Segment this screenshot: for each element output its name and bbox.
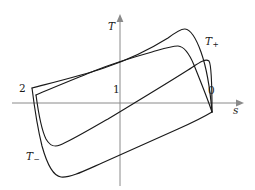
figure-root: T s 0 1 2 T+ T− <box>0 0 255 190</box>
curve-label-t-plus: T+ <box>205 36 219 49</box>
curve-label-t-plus-base: T <box>205 35 212 47</box>
s-axis-label: s <box>233 105 238 116</box>
curve-outer-upper-branch <box>32 29 212 112</box>
curve-label-t-minus-base: T <box>26 150 33 162</box>
curve-label-t-plus-subscript: + <box>212 40 219 49</box>
arrow-up-icon <box>117 14 124 22</box>
point-label-two: 2 <box>19 83 26 94</box>
curve-label-t-minus-subscript: − <box>33 155 40 164</box>
point-label-zero: 0 <box>208 85 215 96</box>
curve-label-t-minus: T− <box>26 151 40 164</box>
curve-outer-lower-branch <box>32 88 212 177</box>
curve-inner-upper-branch <box>36 46 212 112</box>
point-label-one: 1 <box>113 84 120 95</box>
t-axis-label: T <box>108 21 115 32</box>
